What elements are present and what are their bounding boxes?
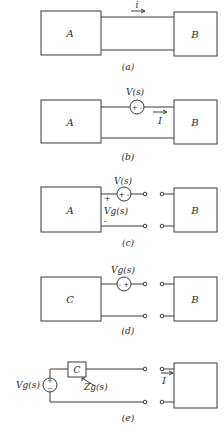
caption-c: (c) (122, 238, 135, 248)
terminal-icon (160, 367, 164, 371)
terminal-icon (143, 192, 147, 196)
terminal-icon (160, 314, 164, 318)
panel-d: - + Vg(s) C B (d) (41, 265, 217, 336)
terminal-icon (143, 224, 147, 228)
terminal-icon (160, 282, 164, 286)
terminal-icon (160, 400, 164, 404)
box-c-label: C (66, 294, 74, 305)
panel-a: i A B (a) (41, 0, 217, 72)
source-polarity: - + (119, 281, 130, 289)
port-plus: + (104, 194, 111, 203)
source-label: V(s) (114, 176, 133, 186)
box-b-label: B (190, 205, 198, 216)
box-a-label: A (65, 28, 73, 39)
terminal-icon (143, 367, 147, 371)
source-minus: − (47, 385, 53, 393)
caption-e: (e) (122, 413, 135, 423)
circuit-diagram: i A B (a) + - V(s) I A B (b) + - V(s (0, 0, 224, 432)
box-b-label: B (190, 29, 198, 40)
source-polarity: + - (119, 191, 130, 199)
box-a-label: A (65, 117, 73, 128)
impedance-box-label: C (74, 365, 81, 375)
port-voltage-label: Vg(s) (104, 206, 128, 216)
terminal-icon (143, 400, 147, 404)
panel-b: + - V(s) I A B (b) (41, 87, 217, 162)
current-label: I (161, 376, 166, 386)
source-label: Vg(s) (16, 380, 40, 390)
box-a-label: A (65, 205, 73, 216)
terminal-icon (160, 192, 164, 196)
box-b (174, 363, 217, 408)
panel-c: + - V(s) + Vg(s) - A B (c) (41, 176, 217, 248)
source-label: V(s) (126, 87, 145, 97)
source-plus: + (47, 377, 53, 385)
box-b-label: B (190, 117, 198, 128)
box-b-label: B (190, 294, 198, 305)
caption-b: (b) (122, 152, 135, 162)
current-label: i (136, 0, 139, 10)
port-minus: - (104, 217, 107, 226)
current-label: I (157, 116, 162, 126)
source-polarity: + - (132, 104, 143, 112)
terminal-icon (143, 314, 147, 318)
impedance-label: Zg(s) (83, 382, 108, 392)
caption-a: (a) (122, 62, 135, 72)
caption-d: (d) (122, 326, 135, 336)
panel-e: C + − I Vg(s) Zg(s) (e) (16, 362, 217, 423)
source-label: Vg(s) (111, 265, 135, 275)
terminal-icon (160, 224, 164, 228)
terminal-icon (143, 282, 147, 286)
